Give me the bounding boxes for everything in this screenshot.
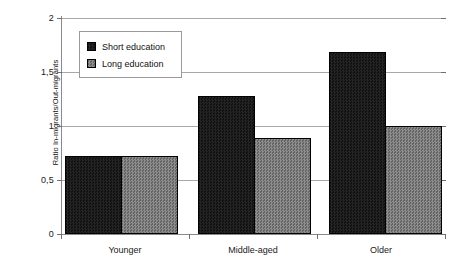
y-axis-title-container: Ratio In-migrants/Out-migrants bbox=[33, 0, 47, 234]
y-tick-label-2.0: 2 bbox=[49, 13, 54, 23]
bar-middle-aged-long-education bbox=[254, 138, 311, 234]
x-tick-mark-start bbox=[61, 234, 62, 239]
y-tick-label-0.0: 0 bbox=[49, 229, 54, 239]
legend-item-long-education: Long education bbox=[87, 55, 174, 72]
bar-younger-long-education bbox=[121, 156, 178, 234]
chart-legend: Short education Long education bbox=[79, 31, 182, 78]
y-tick-label-1.5: 1,5 bbox=[41, 67, 54, 77]
x-tick-mark-1 bbox=[189, 234, 190, 239]
x-axis-line bbox=[61, 234, 446, 235]
bar-younger-short-education bbox=[65, 156, 122, 234]
legend-label-long-education: Long education bbox=[102, 59, 164, 69]
y-tick-label-1.0: 1 bbox=[49, 121, 54, 131]
x-label-younger: Younger bbox=[108, 245, 141, 255]
legend-swatch-long-education-icon bbox=[87, 59, 96, 68]
legend-swatch-short-education-icon bbox=[87, 42, 96, 51]
legend-item-short-education: Short education bbox=[87, 38, 174, 55]
y-tick-label-0.5: 0,5 bbox=[41, 175, 54, 185]
bar-older-short-education bbox=[329, 52, 386, 234]
y-axis-title: Ratio In-migrants/Out-migrants bbox=[51, 33, 60, 193]
x-tick-mark-end bbox=[445, 234, 446, 239]
x-label-older: Older bbox=[370, 245, 392, 255]
bar-middle-aged-short-education bbox=[198, 96, 255, 234]
x-label-middle-aged: Middle-aged bbox=[228, 245, 278, 255]
legend-label-short-education: Short education bbox=[102, 42, 165, 52]
x-tick-mark-2 bbox=[317, 234, 318, 239]
bar-older-long-education bbox=[385, 126, 442, 234]
bar-chart: Ratio In-migrants/Out-migrants 2 1,5 1 0… bbox=[0, 0, 460, 271]
